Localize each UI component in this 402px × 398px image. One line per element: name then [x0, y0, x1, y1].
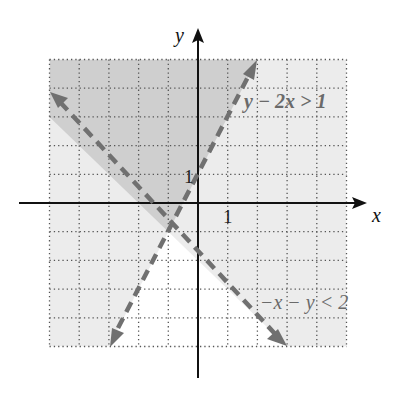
y-axis-label: y	[173, 24, 184, 47]
x-axis-label: x	[371, 204, 381, 226]
inequality-label-1: y − 2x > 1	[242, 90, 326, 113]
x-tick-label: 1	[223, 206, 233, 227]
y-tick-label: 1	[184, 166, 194, 187]
inequality-graph: y x 1 1 y − 2x > 1 −x − y < 2	[0, 0, 402, 398]
inequality-label-2: −x − y < 2	[260, 291, 348, 314]
